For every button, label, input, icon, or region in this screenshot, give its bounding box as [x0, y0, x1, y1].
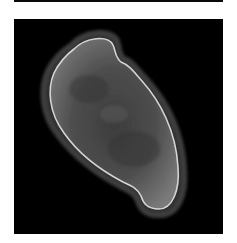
- previous-image-edge: [14, 0, 223, 2]
- cell-shape: [14, 19, 223, 234]
- cell-micrograph: Grayscale micrograph of a single elongat…: [14, 19, 223, 234]
